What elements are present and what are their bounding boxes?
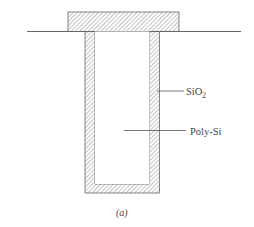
top-oxide-cap [68,12,179,32]
poly-si-fill [95,32,150,185]
trench-diagram: SiO2 Poly-Si (a) [0,0,254,227]
figure-caption: (a) [116,207,128,219]
oxide-label: SiO2 [186,86,206,100]
poly-label: Poly-Si [190,126,222,137]
